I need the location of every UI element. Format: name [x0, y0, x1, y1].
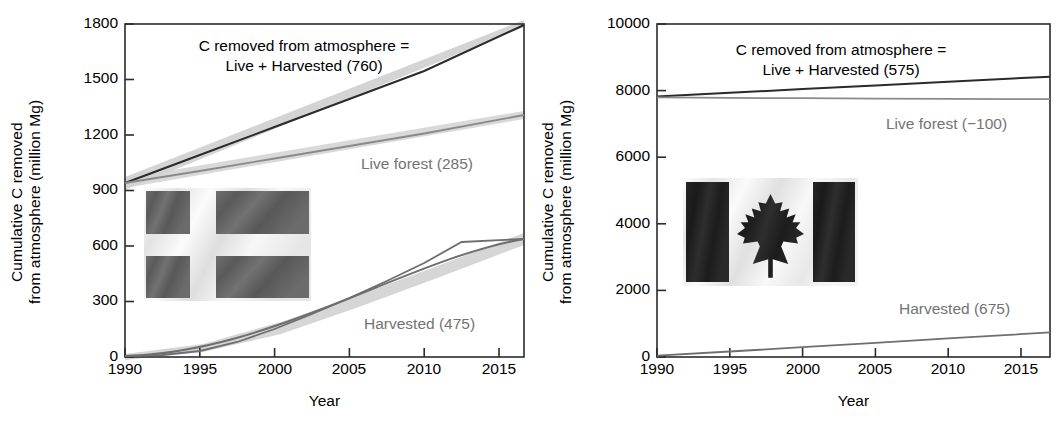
canada-flag-left-bar [686, 182, 729, 282]
canada-ytick-2000: 2000 [579, 280, 650, 298]
canada-flag-svg [683, 178, 858, 286]
finland-ytick-600: 600 [60, 236, 118, 254]
finland-total-annotation: C removed from atmosphere = Live + Harve… [134, 36, 474, 76]
finland-flag-quad-bl [146, 256, 190, 298]
chart-panel-finland: Cumulative C removed from atmosphere (mi… [0, 0, 532, 425]
canada-harvested-line [657, 332, 1050, 355]
canada-x-axis-title: Year [657, 392, 1050, 410]
finland-y-axis-title-line2: from atmosphere (million Mg) [26, 100, 43, 304]
finland-y-axis-title: Cumulative C removed from atmosphere (mi… [8, 52, 44, 352]
finland-xtick-2015: 2015 [466, 360, 532, 378]
canada-ytick-8000: 8000 [579, 81, 650, 99]
finland-ytick-300: 300 [60, 291, 118, 309]
canada-xtick-2015: 2015 [988, 360, 1054, 378]
finland-x-axis-title: Year [125, 392, 524, 410]
canada-xtick-2005: 2005 [842, 360, 908, 378]
canada-ytick-10000: 10000 [579, 14, 650, 32]
finland-y-axis-title-line1: Cumulative C removed [8, 122, 25, 282]
canada-flag [683, 178, 858, 286]
finland-flag-quad-br [216, 256, 309, 298]
canada-flag-right-bar [813, 182, 855, 282]
canada-total-annotation-line1: C removed from atmosphere = [736, 41, 947, 58]
chart-panel-canada: Cumulative C removed from atmosphere (mi… [531, 0, 1063, 425]
finland-ytick-1800: 1800 [60, 14, 118, 32]
finland-total-annotation-line1: C removed from atmosphere = [199, 37, 410, 54]
figure-two-panel-chart: Cumulative C removed from atmosphere (mi… [0, 0, 1063, 425]
canada-xtick-1995: 1995 [697, 360, 763, 378]
canada-total-annotation-line2: Live + Harvested (575) [762, 61, 919, 78]
canada-ytick-6000: 6000 [579, 147, 650, 165]
finland-xtick-1990: 1990 [92, 360, 158, 378]
canada-ytick-4000: 4000 [579, 214, 650, 232]
finland-flag-quad-tr [216, 191, 309, 234]
finland-xtick-1995: 1995 [167, 360, 233, 378]
finland-harvested-label: Harvested (475) [364, 315, 475, 333]
finland-total-annotation-line2: Live + Harvested (760) [225, 57, 382, 74]
canada-y-axis-title: Cumulative C removed from atmosphere (mi… [539, 52, 575, 352]
canada-harvested-label: Harvested (675) [899, 300, 1010, 318]
canada-total-annotation: C removed from atmosphere = Live + Harve… [671, 40, 1011, 80]
finland-flag [144, 188, 311, 301]
finland-y-ticks [125, 24, 134, 357]
finland-flag-quad-tl [146, 191, 190, 234]
canada-xtick-2010: 2010 [915, 360, 981, 378]
finland-flag-svg [144, 188, 311, 301]
finland-xtick-2005: 2005 [316, 360, 382, 378]
canada-y-axis-title-line2: from atmosphere (million Mg) [557, 100, 574, 304]
finland-live-forest-label: Live forest (285) [361, 155, 473, 173]
finland-ytick-900: 900 [60, 180, 118, 198]
canada-xtick-2000: 2000 [770, 360, 836, 378]
canada-xtick-1990: 1990 [624, 360, 690, 378]
canada-live-forest-label: Live forest (−100) [886, 115, 1007, 133]
canada-y-ticks [657, 24, 666, 357]
finland-xtick-2010: 2010 [391, 360, 457, 378]
finland-ytick-1200: 1200 [60, 125, 118, 143]
finland-xtick-2000: 2000 [242, 360, 308, 378]
canada-y-axis-title-line1: Cumulative C removed [539, 122, 556, 282]
finland-ytick-1500: 1500 [60, 69, 118, 87]
canada-live-forest-line [657, 97, 1050, 99]
